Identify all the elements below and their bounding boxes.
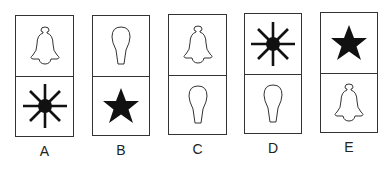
star-icon bbox=[329, 23, 369, 63]
sunburst-icon bbox=[21, 82, 69, 130]
bell-icon bbox=[327, 81, 371, 125]
top-cell bbox=[93, 16, 149, 76]
bottom-cell bbox=[321, 73, 377, 132]
option-d-box[interactable] bbox=[244, 13, 302, 134]
bulb-icon bbox=[106, 24, 136, 68]
option-e-box[interactable] bbox=[320, 12, 378, 133]
top-cell bbox=[245, 14, 301, 74]
option-label: D bbox=[263, 140, 283, 156]
top-cell bbox=[16, 16, 73, 76]
sunburst-icon bbox=[249, 20, 297, 68]
option-a-box[interactable] bbox=[15, 15, 74, 137]
bulb-icon bbox=[258, 82, 288, 126]
option-label: A bbox=[35, 143, 55, 159]
bottom-cell bbox=[93, 76, 149, 135]
option-b-box[interactable] bbox=[92, 15, 150, 136]
bottom-cell bbox=[16, 76, 73, 136]
bottom-cell bbox=[169, 75, 226, 134]
bell-icon bbox=[176, 23, 220, 67]
top-cell bbox=[321, 13, 377, 73]
star-icon bbox=[101, 86, 141, 126]
option-label: B bbox=[111, 142, 131, 158]
bottom-cell bbox=[245, 74, 301, 133]
option-label: E bbox=[339, 139, 359, 155]
bell-icon bbox=[23, 24, 67, 68]
bulb-icon bbox=[183, 83, 213, 127]
option-label: C bbox=[188, 141, 208, 157]
option-c-box[interactable] bbox=[168, 14, 227, 135]
top-cell bbox=[169, 15, 226, 75]
